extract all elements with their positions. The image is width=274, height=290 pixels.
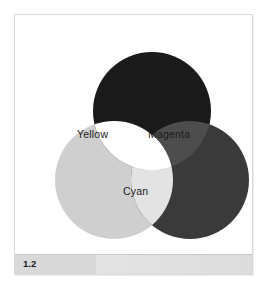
figure-frame: Yellow Magenta Cyan 1.2 — [14, 14, 253, 275]
figure-number: 1.2 — [23, 259, 36, 269]
figure-caption-bar: 1.2 — [15, 254, 252, 274]
venn-diagram: Yellow Magenta Cyan — [15, 15, 252, 243]
venn-label-cyan: Cyan — [123, 186, 148, 197]
venn-diagram-graphic — [15, 15, 252, 243]
venn-label-yellow: Yellow — [77, 129, 108, 140]
venn-label-magenta: Magenta — [148, 129, 190, 140]
